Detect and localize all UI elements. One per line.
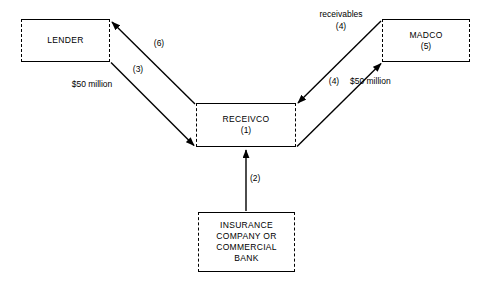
edge-label-receivables: receivables [308,9,374,20]
edge-label-step-4-receivables: (4) [329,21,353,32]
flow-diagram: LENDER RECEIVCO (1) MADCO (5) INSURANCE … [0,0,482,291]
edge-label-step-3: (3) [126,64,150,75]
node-receivco-number: (1) [241,125,251,136]
node-lender[interactable]: LENDER [21,19,110,62]
edge-label-step-2: (2) [250,173,274,184]
node-madco-label: MADCO [409,30,442,41]
node-lender-label: LENDER [47,35,83,46]
edge-receivco-to-lender [112,22,195,104]
node-insurance-company[interactable]: INSURANCE COMPANY OR COMMERCIAL BANK [198,212,295,272]
node-receivco[interactable]: RECEIVCO (1) [196,103,296,147]
node-receivco-label: RECEIVCO [223,114,270,125]
edge-label-amount-lender: $50 million [57,79,127,90]
edge-label-step-4-cash: (4) [322,76,346,87]
edge-label-step-6: (6) [147,38,171,49]
edge-madco-to-receivco [298,21,381,103]
node-insurance-company-label: INSURANCE COMPANY OR COMMERCIAL BANK [216,220,277,264]
node-madco-number: (5) [421,41,431,52]
node-madco[interactable]: MADCO (5) [382,19,470,62]
edge-label-amount-madco: $50 million [350,76,420,87]
edge-lender-to-receivco [111,63,194,146]
